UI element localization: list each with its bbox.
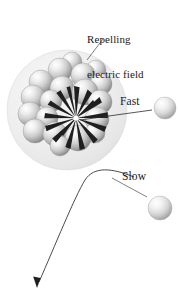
slow-particle-trajectory [33, 170, 134, 288]
field-label: Repelling electric field [87, 11, 144, 103]
physics-diagram: Repelling electric field Fast Slow [0, 0, 179, 300]
slow-label: Slow [122, 171, 146, 183]
field-label-line2: electric field [87, 69, 144, 81]
slow-particle [148, 196, 172, 220]
field-label-line1: Repelling [87, 34, 144, 46]
fast-particle [154, 97, 176, 119]
fast-label: Fast [120, 96, 140, 108]
